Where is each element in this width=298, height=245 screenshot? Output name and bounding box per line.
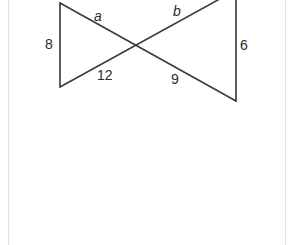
label-8: 8	[45, 36, 53, 52]
label-6: 6	[240, 37, 248, 53]
label-12: 12	[97, 67, 113, 83]
diagonal-a-9	[60, 3, 236, 101]
bowtie-triangles-diagram: a b 8 6 12 9	[0, 0, 298, 245]
label-9: 9	[171, 71, 179, 87]
label-b: b	[173, 3, 181, 19]
diagonal-12-b	[60, 0, 236, 87]
label-a: a	[94, 8, 102, 24]
